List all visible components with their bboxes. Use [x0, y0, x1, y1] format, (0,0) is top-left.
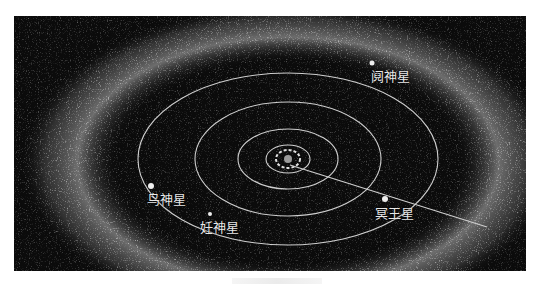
label-haumea: 妊神星: [200, 221, 239, 235]
eris-marker: [370, 61, 375, 66]
figure-caption-cropped: [232, 278, 322, 284]
pluto-marker: [382, 196, 388, 202]
label-pluto: 冥王星: [375, 207, 414, 221]
label-makemake: 鸟神星: [147, 193, 186, 207]
makemake-marker: [148, 183, 154, 189]
haumea-marker: [208, 212, 212, 216]
orbit-diagram: [14, 16, 526, 271]
label-eris: 阋神星: [371, 70, 410, 84]
kuiper-belt-image: 阋神星 鸟神星 妊神星 冥王星: [14, 16, 526, 271]
